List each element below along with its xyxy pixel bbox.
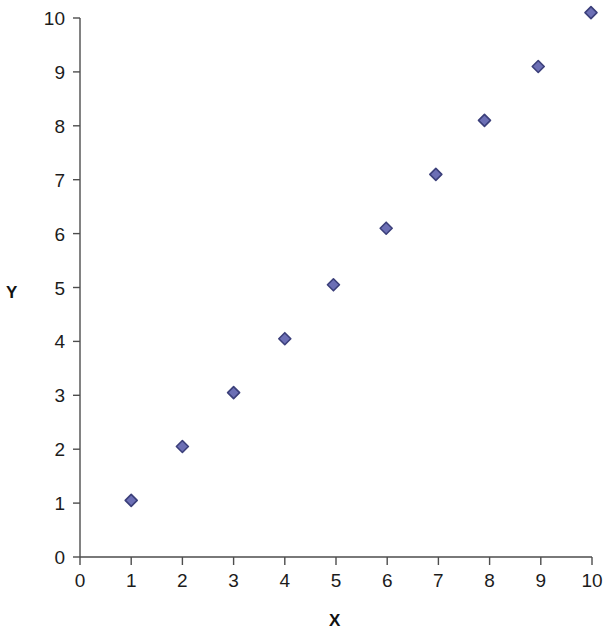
scatter-point xyxy=(125,494,137,506)
x-axis: 012345678910 xyxy=(75,557,603,591)
scatter-point xyxy=(532,61,544,73)
x-axis-tick-label: 6 xyxy=(382,570,393,591)
y-axis-title: Y xyxy=(6,283,18,303)
plot-area: 012345678910 012345678910 xyxy=(0,0,607,636)
scatter-point xyxy=(279,333,291,345)
x-axis-title: X xyxy=(329,611,341,631)
y-axis: 012345678910 xyxy=(44,8,80,568)
scatter-point xyxy=(380,222,392,234)
scatter-point xyxy=(228,387,240,399)
y-axis-tick-label: 5 xyxy=(54,278,65,299)
y-axis-tick-label: 4 xyxy=(54,331,65,352)
x-axis-tick-label: 8 xyxy=(484,570,495,591)
x-axis-tick-label: 2 xyxy=(177,570,188,591)
y-axis-tick-label: 10 xyxy=(44,8,65,29)
y-axis-tick-label: 6 xyxy=(54,224,65,245)
y-axis-tick-label: 3 xyxy=(54,385,65,406)
scatter-point xyxy=(585,7,597,19)
scatter-point xyxy=(327,279,339,291)
y-axis-tick-label: 2 xyxy=(54,439,65,460)
y-axis-tick-label: 0 xyxy=(54,547,65,568)
scatter-point xyxy=(430,168,442,180)
y-axis-tick-label: 1 xyxy=(54,493,65,514)
y-axis-tick-label: 9 xyxy=(54,62,65,83)
scatter-point xyxy=(176,441,188,453)
data-markers xyxy=(125,7,597,507)
x-axis-tick-label: 0 xyxy=(75,570,86,591)
x-axis-tick-label: 10 xyxy=(581,570,602,591)
x-axis-tick-label: 5 xyxy=(331,570,342,591)
scatter-point xyxy=(478,114,490,126)
x-axis-tick-label: 3 xyxy=(228,570,239,591)
scatter-chart: 012345678910 012345678910 Y X xyxy=(0,0,607,636)
x-axis-tick-label: 4 xyxy=(280,570,291,591)
x-axis-tick-label: 9 xyxy=(536,570,547,591)
y-axis-tick-label: 8 xyxy=(54,116,65,137)
x-axis-tick-label: 1 xyxy=(126,570,137,591)
x-axis-tick-label: 7 xyxy=(433,570,444,591)
y-axis-tick-label: 7 xyxy=(54,170,65,191)
